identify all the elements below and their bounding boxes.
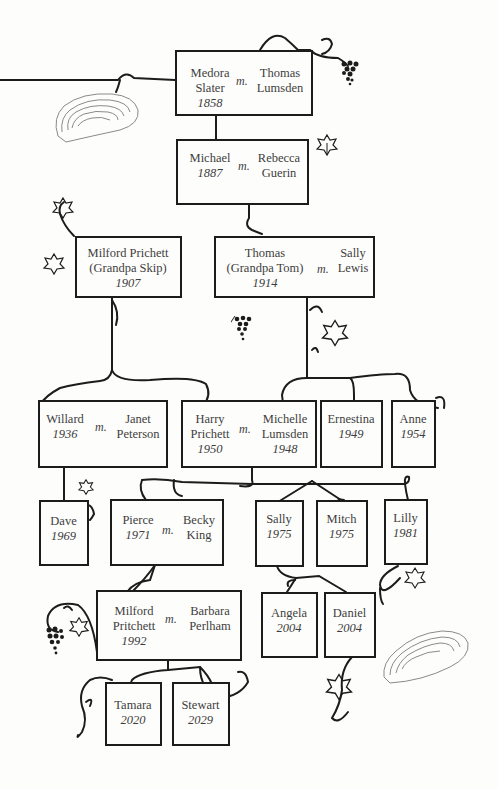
couple-box-harry-michelle: Harry Prichett 1950 m. Michelle Lumsden … bbox=[181, 400, 317, 468]
birth-year: 1969 bbox=[41, 529, 86, 544]
birth-year: 1975 bbox=[318, 527, 365, 542]
grape-leaf-icon bbox=[320, 318, 350, 348]
birth-year: 1948 bbox=[255, 442, 315, 457]
person-name: Michael bbox=[184, 151, 236, 166]
person-name: Milford Prichett bbox=[77, 246, 179, 261]
marriage-marker: m. bbox=[238, 159, 250, 174]
birth-year: 1949 bbox=[322, 427, 380, 442]
person-name: Thomas bbox=[251, 66, 309, 81]
person-name: Milford bbox=[104, 604, 164, 619]
person-nickname: (Grandpa Tom) bbox=[220, 261, 310, 276]
marriage-marker: m. bbox=[165, 612, 177, 627]
family-tree-diagram: Medora Slater 1858 m. Thomas Lumsden Mic… bbox=[0, 0, 498, 789]
person-name: Harry bbox=[185, 412, 235, 427]
birth-year: 1954 bbox=[393, 427, 433, 442]
grape-cluster-icon bbox=[338, 58, 362, 88]
person-name: Becky bbox=[176, 513, 222, 528]
couple-box-medora-thomas: Medora Slater 1858 m. Thomas Lumsden bbox=[175, 50, 313, 116]
person-nickname: (Grandpa Skip) bbox=[77, 261, 179, 276]
person-name: Stewart bbox=[174, 698, 227, 713]
person-name: Willard bbox=[40, 412, 90, 427]
grape-leaf-icon bbox=[402, 566, 428, 590]
person-name: King bbox=[176, 528, 222, 543]
person-name: Angela bbox=[263, 606, 315, 621]
person-name: Michelle bbox=[255, 412, 315, 427]
birth-year: 2029 bbox=[174, 713, 227, 728]
birth-year: 1971 bbox=[114, 528, 162, 543]
person-name: Guerin bbox=[252, 166, 306, 181]
marriage-marker: m. bbox=[236, 74, 248, 89]
birth-year: 1981 bbox=[386, 526, 425, 541]
marriage-marker: m. bbox=[317, 262, 329, 277]
birth-year: 1907 bbox=[77, 276, 179, 291]
person-name: Lilly bbox=[386, 511, 425, 526]
person-name: Sally bbox=[334, 246, 372, 261]
person-name: Ernestina bbox=[322, 412, 380, 427]
person-box-stewart: Stewart 2029 bbox=[172, 682, 230, 746]
person-box-sally: Sally 1975 bbox=[255, 500, 304, 567]
grape-leaf-icon bbox=[78, 478, 94, 496]
person-name: Medora bbox=[185, 66, 235, 81]
grape-cluster-icon bbox=[44, 624, 68, 658]
person-box-lilly: Lilly 1981 bbox=[384, 499, 428, 565]
person-name: Janet bbox=[110, 412, 166, 427]
person-box-mitch: Mitch 1975 bbox=[316, 500, 368, 567]
person-name: Slater bbox=[185, 81, 235, 96]
couple-box-willard-janet: Willard 1936 m. Janet Peterson bbox=[38, 400, 168, 468]
birth-year: 1992 bbox=[104, 634, 164, 649]
person-box-ernestina: Ernestina 1949 bbox=[320, 400, 383, 468]
marriage-marker: m. bbox=[95, 420, 107, 435]
birth-year: 1914 bbox=[220, 276, 310, 291]
grape-leaf-icon bbox=[68, 616, 90, 638]
person-box-angela: Angela 2004 bbox=[261, 592, 318, 658]
person-box-anne: Anne 1954 bbox=[391, 400, 436, 468]
person-name: Tamara bbox=[107, 698, 159, 713]
person-name: Pierce bbox=[114, 513, 162, 528]
birth-year: 2020 bbox=[107, 713, 159, 728]
oyster-shell-icon bbox=[380, 625, 472, 685]
birth-year: 2004 bbox=[263, 621, 315, 636]
birth-year: 1887 bbox=[184, 166, 236, 181]
person-name: Thomas bbox=[220, 246, 310, 261]
person-name: Lumsden bbox=[251, 81, 309, 96]
person-name: Sally bbox=[257, 512, 301, 527]
person-name: Dave bbox=[41, 514, 86, 529]
birth-year: 1936 bbox=[40, 427, 90, 442]
person-name: Rebecca bbox=[252, 151, 306, 166]
couple-box-michael-rebecca: Michael 1887 m. Rebecca Guerin bbox=[176, 139, 309, 205]
person-name: Anne bbox=[393, 412, 433, 427]
person-box-tamara: Tamara 2020 bbox=[105, 682, 162, 746]
person-name: Pritchett bbox=[104, 619, 164, 634]
birth-year: 1858 bbox=[185, 96, 235, 111]
person-box-dave: Dave 1969 bbox=[39, 500, 89, 566]
person-name: Mitch bbox=[318, 512, 365, 527]
person-name: Daniel bbox=[326, 606, 373, 621]
person-name: Barbara bbox=[182, 604, 238, 619]
person-box-daniel: Daniel 2004 bbox=[324, 592, 376, 658]
marriage-marker: m. bbox=[162, 523, 174, 538]
person-name: Prichett bbox=[185, 427, 235, 442]
person-name: Perlham bbox=[182, 619, 238, 634]
birth-year: 2004 bbox=[326, 621, 373, 636]
person-name: Lewis bbox=[334, 261, 372, 276]
person-name: Lumsden bbox=[255, 427, 315, 442]
person-box-milford-skip: Milford Prichett (Grandpa Skip) 1907 bbox=[75, 236, 182, 298]
birth-year: 1975 bbox=[257, 527, 301, 542]
person-name: Peterson bbox=[110, 427, 166, 442]
couple-box-pierce-becky: Pierce 1971 m. Becky King bbox=[110, 499, 224, 566]
grape-leaf-icon bbox=[316, 133, 338, 157]
oyster-shell-icon bbox=[52, 88, 142, 143]
grape-leaf-icon bbox=[52, 196, 74, 220]
birth-year: 1950 bbox=[185, 442, 235, 457]
couple-box-milford-barbara: Milford Pritchett 1992 m. Barbara Perlha… bbox=[96, 590, 242, 661]
couple-box-thomas-sally: Thomas (Grandpa Tom) 1914 m. Sally Lewis bbox=[214, 236, 375, 298]
marriage-marker: m. bbox=[239, 422, 251, 437]
grape-cluster-icon bbox=[231, 314, 255, 344]
grape-leaf-icon bbox=[324, 672, 354, 702]
grape-leaf-icon bbox=[42, 252, 66, 276]
